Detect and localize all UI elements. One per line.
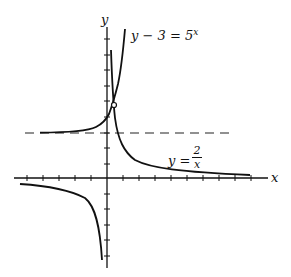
reciprocal-equation-lhs: y = (168, 154, 190, 167)
reciprocal-curve-left (20, 184, 102, 260)
exponential-equation-label: y − 3 = 5x (131, 28, 198, 42)
reciprocal-equation-numerator: 2 (192, 144, 202, 158)
exponential-equation-exponent: x (193, 27, 198, 37)
reciprocal-equation-denominator: x (192, 158, 202, 171)
x-axis-label: x (271, 171, 278, 184)
graph-figure: y x y − 3 = 5x y = 2 x (0, 0, 291, 277)
exponential-equation-base: y − 3 = 5 (131, 28, 193, 43)
intersection-point (112, 103, 117, 108)
y-axis-label: y (101, 13, 108, 26)
